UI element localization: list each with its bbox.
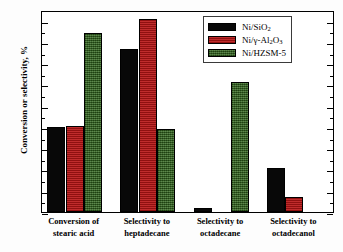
y-tick-major (42, 44, 48, 45)
legend-item-0: Ni/SiO2 (208, 20, 286, 33)
bar (285, 197, 303, 212)
bar (267, 168, 285, 212)
legend: Ni/SiO2 Ni/γ-Al2O3 Ni/HZSM-5 (203, 16, 292, 63)
legend-item-1: Ni/γ-Al2O3 (208, 33, 286, 46)
legend-label-ni-sio2: Ni/SiO2 (242, 22, 271, 32)
legend-item-2: Ni/HZSM-5 (208, 46, 286, 59)
y-tick-minor (42, 55, 45, 56)
y-tick-minor (42, 76, 45, 77)
bar (231, 82, 249, 212)
x-axis-label: Selectivity tooctadecanol (248, 216, 338, 239)
y-tick-major (42, 108, 48, 109)
legend-swatch-ni-sio2 (208, 23, 236, 31)
y-tick-minor (42, 182, 45, 183)
bar (66, 126, 84, 212)
y-tick-minor (42, 140, 45, 141)
y-tick-minor (42, 161, 45, 162)
y-tick-minor (330, 33, 333, 34)
y-tick-major (327, 23, 333, 24)
y-tick-major (42, 65, 48, 66)
bar (84, 33, 102, 212)
y-tick-major (327, 65, 333, 66)
bar (120, 49, 138, 212)
legend-label-ni-al2o3: Ni/γ-Al2O3 (242, 35, 282, 45)
y-tick-minor (330, 161, 333, 162)
y-tick-major (42, 86, 48, 87)
y-tick-major (327, 150, 333, 151)
y-tick-major (42, 214, 48, 215)
y-tick-minor (42, 118, 45, 119)
x-axis-label-line: Selectivity to (248, 216, 338, 228)
x-axis-label-line: octadecanol (248, 228, 338, 240)
bar (47, 127, 65, 212)
y-axis-title: Conversion or selectivity, % (19, 15, 29, 185)
y-tick-minor (42, 203, 45, 204)
y-tick-minor (330, 55, 333, 56)
y-tick-major (327, 86, 333, 87)
y-tick-major (327, 171, 333, 172)
bar (194, 208, 212, 212)
y-tick-minor (42, 33, 45, 34)
legend-swatch-ni-hzsm5 (208, 49, 236, 57)
legend-label-ni-hzsm5: Ni/HZSM-5 (242, 48, 286, 58)
y-tick-major (327, 44, 333, 45)
y-tick-major (327, 129, 333, 130)
y-tick-minor (330, 203, 333, 204)
y-tick-major (42, 23, 48, 24)
y-tick-minor (42, 97, 45, 98)
y-tick-minor (330, 140, 333, 141)
y-tick-major (327, 214, 333, 215)
legend-swatch-ni-al2o3 (208, 36, 236, 44)
bar (139, 19, 157, 212)
y-tick-major (327, 108, 333, 109)
y-tick-minor (330, 97, 333, 98)
y-tick-major (327, 193, 333, 194)
y-tick-minor (330, 118, 333, 119)
bar-chart: Conversion or selectivity, % 01020304050… (0, 0, 343, 252)
bar (157, 129, 175, 212)
y-tick-minor (330, 76, 333, 77)
y-tick-minor (330, 182, 333, 183)
